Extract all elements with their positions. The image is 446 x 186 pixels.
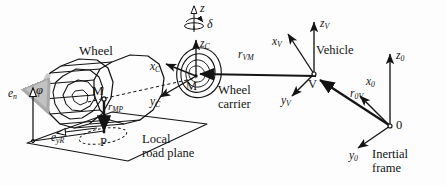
inertial-frame-axes [358,54,390,148]
road-plane-trace [33,131,104,141]
vector-r-vm [200,74,316,76]
label-wheel: Wheel [79,44,113,57]
label-contact-point-p: P [100,136,107,149]
inertial-line2: frame [372,161,401,175]
local-road-line1: Local [142,132,170,146]
label-carrier-axis-y: yC [150,96,160,108]
label-steering-axis-z: z [200,2,205,14]
label-vehicle-axis-z: zV [320,18,329,30]
label-wheel-carrier: Wheel carrier [218,84,278,111]
label-vehicle-origin-v: V [308,78,317,91]
label-vector-r-mp: rMP [108,101,123,112]
yc-sub: C [155,100,160,109]
wheel-carrier-body [177,48,222,98]
z0-sub: 0 [400,54,404,63]
inertial-origin-marker [388,124,392,128]
xv-sub: V [277,40,282,49]
local-road-line2: road plane [142,146,194,160]
x0-sub: 0 [371,80,375,89]
wheel-spin-arrow [43,76,48,110]
y0-sub: 0 [354,154,358,163]
label-carrier-axis-z: zC [200,38,210,50]
label-vector-e-n: en [8,88,17,100]
e-yr-sub: yR [56,136,64,145]
label-carrier-center-m: M [186,80,197,93]
r-mp-sub: MP [112,105,123,114]
wheel-carrier-line1: Wheel [218,83,251,97]
carrier-center-marker [194,74,197,77]
label-vector-r-vm: rVM [238,49,254,61]
contact-point-marker [103,131,106,134]
r-vm-sub: VM [242,53,253,62]
inertial-line1: Inertial [372,147,408,161]
label-carrier-axis-x: xC [150,61,160,73]
label-vehicle-axis-x: xV [272,36,282,48]
label-steering-angle-delta: δ [207,18,213,30]
label-inertial-axis-x: x0 [366,76,375,88]
e-n-sub: n [13,92,17,101]
label-vector-e-yr: eyR [51,132,64,144]
label-inertial-origin-zero: 0 [396,119,402,132]
vector-e-n [31,88,34,143]
zv-sub: V [324,22,329,31]
label-vehicle: Vehicle [316,44,353,57]
kinematics-diagram: Wheel M P rMP en eyR φ Local road plane … [0,0,446,186]
label-wheel-center-m: M [92,84,104,97]
label-wheel-spin-angle: φ [36,84,43,97]
vector-r-0v [320,80,389,125]
xc-sub: C [155,65,160,74]
label-vector-r-0v: r0V [350,88,363,100]
label-inertial-axis-y: y0 [349,150,358,162]
label-vehicle-axis-y: yV [281,95,291,107]
label-inertial-axis-z: z0 [396,50,404,62]
vehicle-origin-marker [312,72,316,76]
zc-sub: C [204,42,209,51]
yv-sub: V [286,99,291,108]
r-0v-sub: 0V [354,92,363,101]
label-local-road-plane: Local road plane [142,133,222,160]
wheel-spin-axis [88,78,196,102]
label-inertial-frame: Inertial frame [372,148,442,175]
wheel-carrier-line2: carrier [218,97,251,111]
